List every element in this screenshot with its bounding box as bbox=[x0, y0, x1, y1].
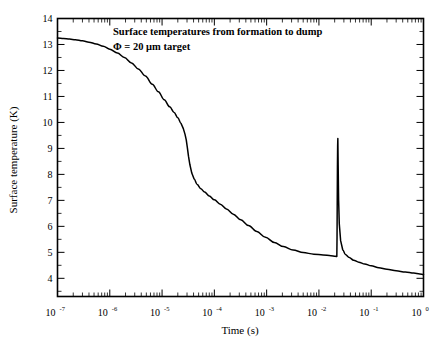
y-tick-label: 8 bbox=[48, 169, 53, 180]
svg-text:-7: -7 bbox=[60, 305, 66, 312]
svg-text:0: 0 bbox=[426, 305, 429, 312]
y-tick-label: 10 bbox=[43, 117, 53, 128]
svg-text:-5: -5 bbox=[164, 305, 169, 312]
y-axis-title: Surface temperature (K) bbox=[7, 106, 20, 213]
svg-text:10: 10 bbox=[359, 307, 369, 318]
svg-text:10: 10 bbox=[307, 307, 317, 318]
svg-text:-3: -3 bbox=[269, 305, 274, 312]
svg-text:-4: -4 bbox=[216, 305, 222, 312]
svg-text:-1: -1 bbox=[373, 305, 378, 312]
svg-text:10: 10 bbox=[412, 307, 422, 318]
y-tick-label: 13 bbox=[43, 39, 53, 50]
plot-canvas: 10-710-610-510-410-310-210-1100 45678910… bbox=[0, 0, 447, 346]
svg-text:10: 10 bbox=[98, 307, 108, 318]
figure-surface-temperature: 10-710-610-510-410-310-210-1100 45678910… bbox=[0, 0, 447, 346]
annotation-title-line1: Surface temperatures from formation to d… bbox=[113, 25, 322, 39]
svg-text:10: 10 bbox=[46, 307, 56, 318]
y-tick-label: 5 bbox=[48, 247, 53, 258]
svg-text:10: 10 bbox=[202, 307, 212, 318]
plot-background bbox=[0, 0, 447, 346]
y-tick-label: 14 bbox=[43, 13, 53, 24]
y-tick-label: 4 bbox=[48, 273, 53, 284]
y-tick-label: 9 bbox=[48, 143, 53, 154]
svg-text:10: 10 bbox=[150, 307, 160, 318]
svg-text:10: 10 bbox=[255, 307, 265, 318]
y-tick-label: 12 bbox=[43, 65, 53, 76]
svg-text:-2: -2 bbox=[321, 305, 326, 312]
x-axis-title: Time (s) bbox=[221, 324, 259, 337]
y-tick-label: 7 bbox=[48, 195, 53, 206]
y-tick-label: 6 bbox=[48, 221, 53, 232]
svg-text:-6: -6 bbox=[112, 305, 118, 312]
annotation-title-line2: Φ = 20 μm target bbox=[113, 40, 190, 54]
y-tick-label: 11 bbox=[43, 91, 53, 102]
